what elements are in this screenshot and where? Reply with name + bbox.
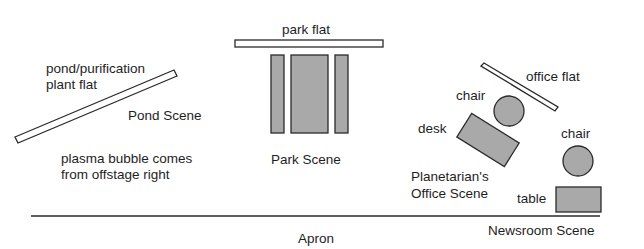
park-column-left <box>271 55 284 133</box>
pond-flat-label-line2: plant flat <box>46 77 97 93</box>
office-chair-label: chair <box>456 88 485 104</box>
desk-label: desk <box>418 121 447 137</box>
office-flat-label: office flat <box>526 69 580 85</box>
newsroom-scene-label: Newsroom Scene <box>488 223 595 239</box>
office-scene-label-line1: Planetarian's <box>411 169 489 185</box>
park-column-right <box>335 55 348 133</box>
newsroom-chair-label: chair <box>561 126 590 142</box>
park-scene-label: Park Scene <box>271 152 341 168</box>
apron-label: Apron <box>298 231 334 247</box>
plasma-note-line1: plasma bubble comes <box>61 151 192 167</box>
plasma-note-line2: from offstage right <box>61 167 170 183</box>
park-flat-label: park flat <box>282 22 330 38</box>
table-label: table <box>517 191 546 207</box>
newsroom-chair <box>563 146 593 176</box>
newsroom-table <box>556 187 601 212</box>
pond-flat-label-line1: pond/purification <box>46 61 145 77</box>
office-scene-label-line2: Office Scene <box>411 186 488 202</box>
park-flat <box>235 40 383 47</box>
pond-scene-label: Pond Scene <box>128 108 202 124</box>
office-chair <box>494 96 524 126</box>
park-column-center <box>291 55 328 133</box>
